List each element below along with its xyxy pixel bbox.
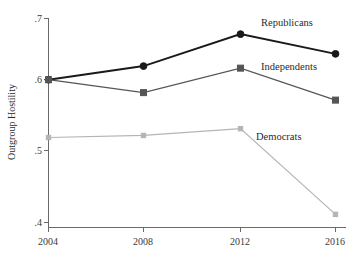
- series-annotation-independents: Independents: [261, 61, 317, 72]
- series-republicans: [45, 31, 339, 83]
- series-annotation-democrats: Democrats: [256, 131, 301, 142]
- datapoint-democrats-2016[interactable]: [333, 212, 337, 216]
- datapoint-independents-2008[interactable]: [141, 90, 147, 96]
- y-tick-label-0.7: .7: [35, 13, 43, 24]
- chart-container: .7 .6 .5 .4 2004 2008 2012 2016 Outgroup…: [0, 0, 358, 264]
- y-tick-label-0.4: .4: [35, 217, 43, 228]
- datapoint-democrats-2008[interactable]: [141, 133, 145, 137]
- x-tick-label-2004: 2004: [38, 236, 58, 247]
- series-layer: [45, 31, 339, 217]
- x-tick-label-2016: 2016: [325, 236, 345, 247]
- datapoint-democrats-2012[interactable]: [238, 126, 242, 130]
- series-annotation-republicans: Republicans: [261, 17, 313, 28]
- datapoint-republicans-2016[interactable]: [332, 50, 339, 57]
- datapoint-republicans-2008[interactable]: [140, 63, 147, 70]
- series-line-republicans: [49, 34, 336, 80]
- datapoint-independents-2012[interactable]: [238, 65, 244, 71]
- y-tick-label-0.5: .5: [35, 145, 43, 156]
- x-tick-label-2012: 2012: [230, 236, 250, 247]
- datapoint-independents-2004[interactable]: [46, 77, 52, 83]
- y-tick-label-0.6: .6: [35, 74, 43, 85]
- line-chart-plot: .7 .6 .5 .4 2004 2008 2012 2016 Outgroup…: [0, 0, 358, 264]
- datapoint-independents-2016[interactable]: [333, 97, 339, 103]
- datapoint-democrats-2004[interactable]: [46, 135, 50, 139]
- x-tick-label-2008: 2008: [133, 236, 153, 247]
- y-axis-title: Outgroup Hostility: [6, 84, 17, 160]
- datapoint-republicans-2012[interactable]: [237, 31, 244, 38]
